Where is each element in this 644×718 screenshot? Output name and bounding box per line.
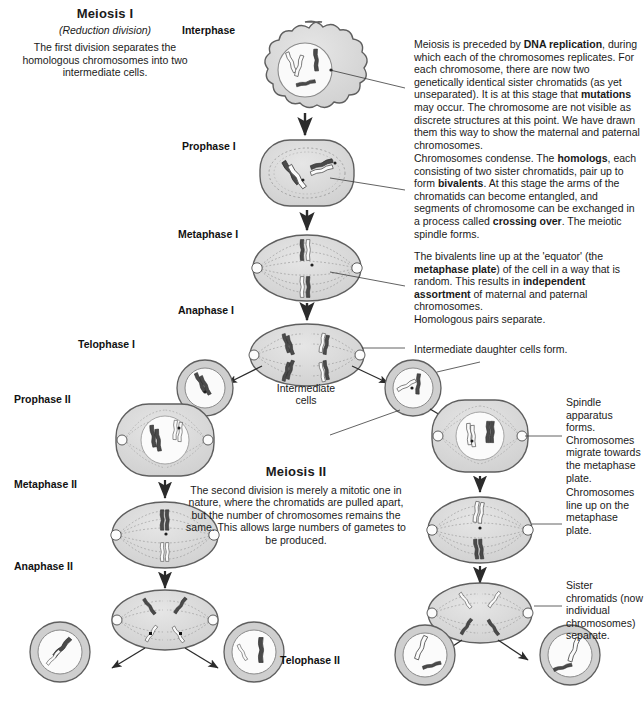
cell-anaphase-ii [112,590,218,668]
note-prophase-b1: homologs [557,152,607,164]
note-spindle-apparatus: Spindle apparatus forms. Chromosomes mig… [566,396,642,484]
note-prophase-b3: crossing over [493,215,562,227]
note-interphase-b1: DNA replication [524,38,602,50]
note-metaphase-b1: metaphase plate [414,263,496,275]
meiosis-ii-block: Meiosis II The second division is merely… [182,466,410,547]
cell-prophase-i [260,140,405,230]
note-prophase-b2: bivalents [438,177,484,189]
gamete-left-1 [30,622,90,682]
note-interphase-p3: may occur. The chromosome are not visibl… [414,101,640,151]
label-prophase-i: Prophase I [182,140,236,152]
meiosis-i-body: The first division separates the homolog… [10,41,200,79]
gamete-left-2 [224,622,284,682]
label-interphase: Interphase [182,24,235,36]
note-prophase-i: Chromosomes condense. The homologs, each… [414,152,642,240]
note-interphase-b2: mutations [581,88,631,100]
meiosis-ii-title: Meiosis II [182,466,410,479]
meiosis-i-block: Meiosis I (Reduction division) The first… [10,8,200,79]
label-metaphase-ii: Metaphase II [14,478,77,490]
note-homologous-pairs: Homologous pairs separate. [414,313,642,326]
note-interphase: Meiosis is preceded by DNA replication, … [414,38,642,151]
label-telophase-ii: Telophase II [280,654,340,666]
gamete-right-1 [395,625,455,685]
cell-metaphase-ii-right [427,497,562,583]
label-metaphase-i: Metaphase I [178,228,238,240]
meiosis-diagram: Meiosis I (Reduction division) The first… [0,0,644,718]
meiosis-i-title: Meiosis I [10,8,200,21]
cell-metaphase-i [252,235,405,320]
cell-anaphase-i [228,324,405,386]
note-intermediate-daughter: Intermediate daughter cells form. [414,343,642,356]
cell-prophase-ii-right [432,400,562,492]
meiosis-ii-body: The second division is merely a mitotic … [182,484,410,547]
label-intermediate-cells: Intermediate cells [258,382,354,407]
label-telophase-i: Telophase I [78,338,135,350]
note-metaphase-p1: The bivalents line up at the 'equator' (… [414,250,603,262]
note-metaphase-i: The bivalents line up at the 'equator' (… [414,250,642,313]
note-sister-chromatids: Sister chromatids (now individual chromo… [566,579,644,642]
meiosis-i-subtitle: (Reduction division) [10,24,200,37]
cell-interphase [265,21,405,135]
note-interphase-p1: Meiosis is preceded by [414,38,524,50]
intermediate-cells-text: Intermediate cells [258,382,354,407]
note-prophase-p1: Chromosomes condense. The [414,152,557,164]
label-prophase-ii: Prophase II [14,393,71,405]
note-chromosomes-line-up: Chromosomes line up on the metaphase pla… [566,486,644,536]
label-anaphase-i: Anaphase I [178,304,234,316]
label-anaphase-ii: Anaphase II [14,560,73,572]
